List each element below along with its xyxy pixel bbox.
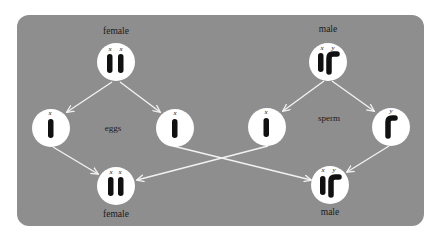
female-offspring-label: female: [103, 209, 129, 219]
egg-2: x: [156, 109, 194, 147]
sperm-y: y: [372, 107, 410, 146]
arrow-female-to-egg2: [120, 82, 160, 112]
male-offspring: x y male: [311, 166, 349, 217]
arrow-female-to-egg1: [67, 82, 112, 112]
x-chromosome-icon: [172, 119, 178, 138]
arrows: [53, 81, 389, 180]
x-chromosome-icon: [108, 177, 114, 196]
sex-determination-diagram: female x x male x y eggs x x sperm: [0, 0, 434, 241]
sperm-x: x: [248, 108, 286, 146]
arrow-sperm-y-to-male-child: [347, 146, 389, 172]
female-parent: female x x: [97, 26, 135, 81]
x-chromosome-icon: [118, 177, 124, 196]
male-parent: male x y: [309, 24, 347, 81]
sperm-group: sperm x y: [248, 107, 410, 146]
arrow-egg1-to-female-child: [53, 147, 98, 174]
male-parent-label: male: [319, 24, 337, 34]
female-parent-cell: [97, 43, 135, 81]
x-chromosome-icon: [107, 54, 113, 73]
x-chromosome-icon: [320, 176, 326, 195]
arrow-male-to-sperm-y: [332, 81, 374, 111]
x-chromosome-icon: [264, 118, 270, 137]
eggs-group: eggs x x: [32, 109, 194, 147]
female-offspring-cell: [97, 167, 135, 205]
arrow-sperm-x-to-female-child: [137, 146, 268, 180]
female-offspring: x x female: [97, 167, 135, 219]
x-chromosome-icon: [118, 54, 124, 73]
arrow-male-to-sperm-x: [283, 81, 324, 111]
x-chromosome-icon: [48, 119, 54, 138]
arrow-egg2-to-male-child: [173, 146, 311, 180]
x-chromosome-icon: [318, 53, 324, 72]
sperm-label: sperm: [318, 113, 340, 123]
egg-1: x: [32, 109, 70, 147]
male-offspring-label: male: [321, 207, 339, 217]
female-parent-label: female: [103, 26, 129, 36]
eggs-label: eggs: [105, 123, 122, 133]
